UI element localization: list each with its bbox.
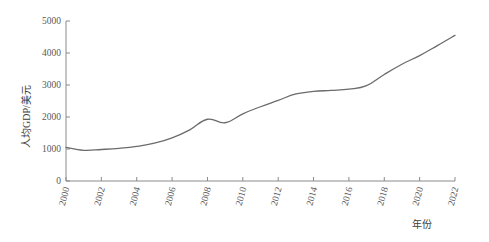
x-axis-tick-labels: 2000200220042006200820102012201420162018… xyxy=(57,186,461,207)
x-tick-label: 2014 xyxy=(305,186,320,207)
chart-svg: 010002000300040005000 200020022004200620… xyxy=(0,0,489,242)
x-tick-label: 2020 xyxy=(411,186,426,207)
x-tick-label: 2006 xyxy=(163,186,178,207)
y-tick-label: 0 xyxy=(56,176,61,186)
y-tick-label: 3000 xyxy=(42,80,61,90)
x-tick-label: 2012 xyxy=(269,186,284,207)
axes-group xyxy=(66,21,455,181)
x-tick-label: 2016 xyxy=(340,186,355,207)
y-tick-label: 4000 xyxy=(42,48,61,58)
y-axis-tick-labels: 010002000300040005000 xyxy=(42,16,61,186)
x-tick-label: 2022 xyxy=(446,186,461,207)
x-tick-label: 2000 xyxy=(57,186,72,207)
y-tick-label: 5000 xyxy=(42,16,61,26)
x-tick-label: 2010 xyxy=(234,186,249,207)
x-tick-label: 2004 xyxy=(128,186,143,207)
series-line-人均GDP xyxy=(66,35,455,150)
x-tick-label: 2002 xyxy=(92,186,107,207)
gdp-line-chart: 010002000300040005000 200020022004200620… xyxy=(0,0,489,242)
x-tick-label: 2008 xyxy=(198,186,213,207)
x-axis-title: 年份 xyxy=(412,218,432,230)
x-axis-ticks xyxy=(66,177,455,181)
axis-lines xyxy=(66,21,455,181)
y-tick-label: 2000 xyxy=(42,112,61,122)
series-group xyxy=(66,35,455,150)
y-axis-ticks xyxy=(66,21,70,181)
x-tick-label: 2018 xyxy=(375,186,390,207)
y-axis-title: 人均GDP/美元 xyxy=(20,85,32,148)
y-tick-label: 1000 xyxy=(42,144,61,154)
